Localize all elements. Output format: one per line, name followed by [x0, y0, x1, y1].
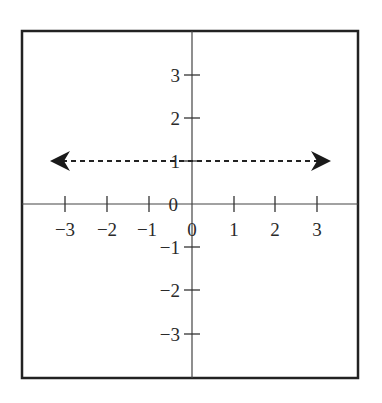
x-tick-label: 3 — [312, 219, 322, 240]
y-tick-label: 2 — [171, 108, 181, 129]
x-tick-label: −1 — [137, 219, 157, 240]
y-tick-label: −2 — [160, 280, 180, 301]
x-tick-label: −3 — [55, 219, 75, 240]
x-tick-label: 0 — [187, 219, 197, 240]
y-tick-label: −1 — [160, 237, 180, 258]
x-tick-label: 1 — [229, 219, 239, 240]
y-tick-label: 0 — [169, 194, 179, 215]
y-tick-label: 3 — [171, 65, 181, 86]
y-tick-label: −3 — [160, 324, 180, 345]
coordinate-plane: −3 −2 −1 0 1 2 3 3 2 1 0 −1 −2 −3 — [0, 0, 382, 403]
x-tick-label: −2 — [97, 219, 117, 240]
x-tick-label: 2 — [270, 219, 280, 240]
